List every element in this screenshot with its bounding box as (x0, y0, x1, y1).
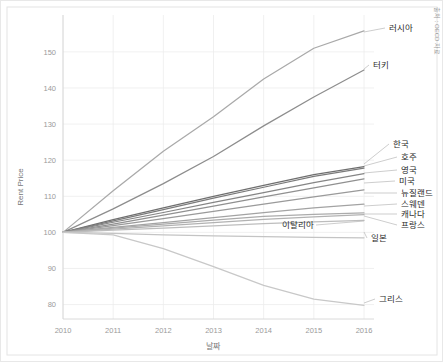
y-tick-label: 90 (48, 264, 56, 273)
x-axis-title: 날짜 (206, 341, 221, 351)
x-tick-label: 2016 (356, 326, 373, 335)
series-end-labels: 러시아터키한국호주영국미국뉴질랜드스웨덴캐나다프랑스이탈리아일본그리스 (282, 23, 433, 304)
leader-line-영국 (364, 170, 397, 173)
leader-line-프랑스 (364, 216, 397, 225)
y-tick-label: 130 (43, 120, 56, 129)
series-label-일본: 일본 (371, 233, 387, 243)
leader-line-미국 (364, 181, 395, 183)
y-axis-title: Rent Price (16, 168, 25, 206)
y-axis-tick-labels: 8090100110120130140150 (43, 48, 56, 310)
x-tick-label: 2014 (255, 326, 272, 335)
series-label-이탈리아: 이탈리아 (282, 220, 314, 230)
series-label-영국: 영국 (401, 165, 417, 175)
leader-line-호주 (364, 157, 397, 166)
y-tick-label: 110 (44, 192, 56, 201)
x-axis-tick-labels: 2010201120122013201420152016 (55, 326, 373, 335)
y-tick-label: 80 (48, 300, 56, 309)
series-label-터키: 터키 (373, 60, 389, 70)
leader-line-그리스 (364, 299, 375, 303)
x-tick-label: 2012 (155, 326, 172, 335)
leader-line-스웨덴 (364, 204, 397, 206)
series-label-프랑스: 프랑스 (401, 220, 425, 230)
source-note: 출처 : OECD 자료 (433, 7, 441, 55)
chart-figure: 8090100110120130140150 20102011201220132… (0, 0, 443, 362)
x-tick-label: 2011 (105, 326, 121, 335)
series-label-캐나다: 캐나다 (401, 209, 425, 219)
y-tick-label: 140 (43, 84, 56, 93)
y-tick-label: 120 (43, 156, 56, 165)
series-label-러시아: 러시아 (389, 23, 413, 33)
x-tick-label: 2013 (205, 326, 222, 335)
axis-lines (63, 15, 374, 319)
series-label-호주: 호주 (401, 152, 417, 162)
leader-line-한국 (364, 144, 389, 164)
x-tick-label: 2015 (305, 326, 322, 335)
y-tick-label: 100 (43, 228, 56, 237)
series-label-미국: 미국 (399, 176, 415, 186)
series-label-한국: 한국 (393, 139, 409, 149)
gridlines (63, 15, 374, 319)
leader-line-일본 (364, 232, 367, 238)
leader-line-러시아 (364, 28, 385, 32)
series-label-그리스: 그리스 (379, 294, 403, 304)
leader-line-터키 (364, 65, 369, 69)
series-label-스웨덴: 스웨덴 (401, 199, 425, 209)
line-chart: 8090100110120130140150 20102011201220132… (1, 1, 443, 362)
y-tick-label: 150 (43, 48, 56, 57)
x-tick-label: 2010 (55, 326, 72, 335)
series-label-뉴질랜드: 뉴질랜드 (401, 188, 433, 198)
